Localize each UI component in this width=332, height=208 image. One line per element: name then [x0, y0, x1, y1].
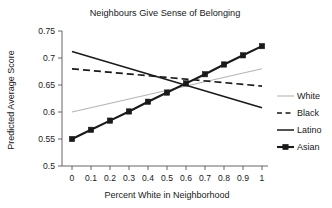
x-axis-label: Percent White in Neighborhood	[104, 190, 229, 200]
series-marker-asian	[240, 53, 245, 58]
x-tick-label: 0.6	[180, 173, 192, 183]
y-tick-label: 0.55	[38, 134, 55, 144]
x-axis: 00.10.20.30.40.50.60.70.80.91	[62, 166, 268, 183]
x-tick-label: 0.3	[123, 173, 135, 183]
y-tick-label: 0.7	[43, 53, 55, 63]
chart-legend: WhiteBlackLatinoAsian	[277, 91, 322, 152]
y-tick-label: 0.75	[38, 26, 55, 36]
legend-label-white: White	[297, 91, 320, 101]
legend-label-black: Black	[297, 108, 320, 118]
line-chart: Neighbours Give Sense of Belonging Predi…	[0, 0, 332, 208]
series-marker-asian	[88, 127, 93, 132]
chart-title: Neighbours Give Sense of Belonging	[90, 8, 241, 18]
series-marker-asian	[221, 62, 226, 67]
x-tick-label: 1	[260, 173, 265, 183]
x-tick-label: 0.4	[142, 173, 154, 183]
x-tick-label: 0.1	[85, 173, 97, 183]
series-marker-asian	[69, 136, 74, 141]
x-tick-label: 0.7	[199, 173, 211, 183]
legend-label-asian: Asian	[297, 142, 320, 152]
chart-figure: Neighbours Give Sense of Belonging Predi…	[0, 0, 332, 208]
series-marker-asian	[126, 109, 131, 114]
y-axis: 0.50.550.60.650.70.75	[38, 26, 62, 171]
series-marker-asian	[145, 99, 150, 104]
y-tick-label: 0.5	[43, 161, 55, 171]
x-tick-label: 0.9	[237, 173, 249, 183]
series-marker-asian	[164, 90, 169, 95]
x-tick-label: 0.8	[218, 173, 230, 183]
legend-marker-asian	[283, 144, 288, 149]
series-marker-asian	[183, 81, 188, 86]
series-line-black	[72, 69, 262, 86]
series-marker-asian	[259, 43, 264, 48]
y-tick-label: 0.65	[38, 80, 55, 90]
series-marker-asian	[202, 72, 207, 77]
x-tick-label: 0.2	[104, 173, 116, 183]
legend-label-latino: Latino	[297, 125, 322, 135]
y-tick-label: 0.6	[43, 107, 55, 117]
series-marker-asian	[107, 118, 112, 123]
y-axis-label: Predicted Average Score	[6, 50, 16, 149]
data-series-group	[69, 43, 264, 141]
x-tick-label: 0	[70, 173, 75, 183]
x-tick-label: 0.5	[161, 173, 173, 183]
